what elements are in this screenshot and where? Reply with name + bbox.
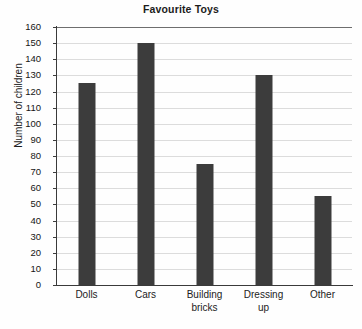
y-tick-label: 30 bbox=[1, 232, 41, 242]
chart-title: Favourite Toys bbox=[0, 3, 362, 15]
bars-layer bbox=[57, 27, 352, 285]
x-axis-labels: DollsCarsBuildingbricksDressingupOther bbox=[57, 289, 352, 329]
bar-slot bbox=[175, 27, 234, 285]
x-tick-label: Buildingbricks bbox=[175, 289, 234, 314]
bar-chart: Favourite Toys Number of children 010203… bbox=[0, 0, 362, 329]
bar-slot bbox=[234, 27, 293, 285]
x-tick-label-line: Cars bbox=[135, 289, 156, 300]
bar[interactable] bbox=[255, 75, 272, 285]
x-tick-label: Cars bbox=[116, 289, 175, 302]
y-tick-label: 160 bbox=[1, 22, 41, 32]
x-axis-line bbox=[56, 285, 353, 286]
y-tick-label: 50 bbox=[1, 199, 41, 209]
bar[interactable] bbox=[137, 43, 154, 285]
bar-slot bbox=[116, 27, 175, 285]
y-tick-label: 10 bbox=[1, 264, 41, 274]
bar[interactable] bbox=[78, 83, 95, 285]
x-tick-label-line: Building bbox=[187, 289, 223, 300]
y-tick-label: 20 bbox=[1, 248, 41, 258]
x-tick-label: Dolls bbox=[57, 289, 116, 302]
bar[interactable] bbox=[196, 164, 213, 285]
y-tick-label: 130 bbox=[1, 70, 41, 80]
x-tick-label-line: Other bbox=[310, 289, 335, 300]
x-tick-label-line: Dressing bbox=[244, 289, 283, 300]
bar-slot bbox=[57, 27, 116, 285]
x-tick-label-line: up bbox=[234, 302, 293, 315]
y-tick-label: 90 bbox=[1, 135, 41, 145]
y-tick-label: 0 bbox=[1, 280, 41, 290]
x-tick-label-line: Dolls bbox=[75, 289, 97, 300]
y-tick-label: 110 bbox=[1, 103, 41, 113]
x-tick-label-line: bricks bbox=[175, 302, 234, 315]
x-tick-label: Other bbox=[293, 289, 352, 302]
y-tick-label: 80 bbox=[1, 151, 41, 161]
y-tick-label: 150 bbox=[1, 38, 41, 48]
y-tick-label: 140 bbox=[1, 54, 41, 64]
bar-slot bbox=[293, 27, 352, 285]
x-tick-label: Dressingup bbox=[234, 289, 293, 314]
y-tick-label: 100 bbox=[1, 119, 41, 129]
y-tick-label: 70 bbox=[1, 167, 41, 177]
y-tick-label: 120 bbox=[1, 87, 41, 97]
y-tick-label: 60 bbox=[1, 183, 41, 193]
bar[interactable] bbox=[314, 196, 331, 285]
y-tick-label: 40 bbox=[1, 216, 41, 226]
